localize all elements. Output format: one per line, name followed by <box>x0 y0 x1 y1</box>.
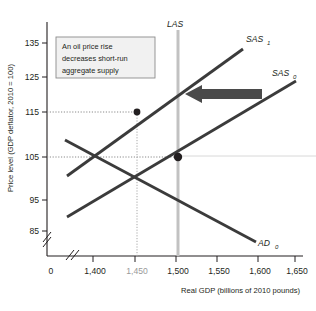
x-axis-title: Real GDP (billions of 2010 pounds) <box>181 286 300 295</box>
svg-text:SAS: SAS <box>272 68 289 78</box>
y-tick-label-115: 115 <box>25 107 39 117</box>
x-tick-label-1450: 1,450 <box>126 266 148 276</box>
y-tick-label-95: 95 <box>29 195 39 205</box>
y-tick-label-125: 125 <box>25 72 40 82</box>
equilibrium-point-new <box>134 109 141 116</box>
x-tick-label-1400: 1,400 <box>84 266 106 276</box>
x-tick-label-1600: 1,600 <box>249 266 271 276</box>
x-tick-label-1650: 1,650 <box>286 266 308 276</box>
annotation-line-1: An oil price rise <box>62 42 113 51</box>
x-tick-label-1500: 1,500 <box>167 266 189 276</box>
equilibrium-point-initial <box>174 153 182 161</box>
las-curve-label: LAS <box>167 19 184 29</box>
svg-text:SAS: SAS <box>246 34 263 44</box>
figure-container: 135 125 115 105 95 85 0 1,400 1,450 1,50… <box>0 0 316 311</box>
y-axis-title: Price level (GDP deflator, 2010 = 100) <box>6 64 15 192</box>
annotation-line-3: aggregate supply <box>62 66 119 75</box>
annotation-line-2: decreases short-run <box>62 54 128 63</box>
svg-text:AD: AD <box>257 238 270 248</box>
y-tick-label-105: 105 <box>25 152 40 162</box>
x-tick-label-1550: 1,550 <box>208 266 230 276</box>
svg-text:1: 1 <box>267 40 270 46</box>
y-tick-label-85: 85 <box>29 226 39 236</box>
annotation-box: An oil price rise decreases short-run ag… <box>56 37 155 78</box>
aggregate-supply-demand-chart: 135 125 115 105 95 85 0 1,400 1,450 1,50… <box>0 0 316 311</box>
y-tick-label-135: 135 <box>25 38 40 48</box>
x-tick-label-0: 0 <box>49 266 54 276</box>
